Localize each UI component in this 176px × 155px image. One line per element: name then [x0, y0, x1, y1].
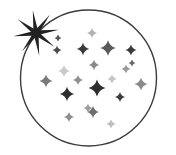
background-rect: [0, 0, 176, 155]
starfield-illustration: [0, 0, 176, 155]
starfield-canvas: [0, 0, 176, 155]
